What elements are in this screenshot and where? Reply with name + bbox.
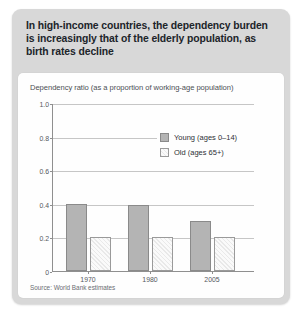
card-header: In high-income countries, the dependency… — [12, 9, 290, 59]
legend-swatch-young-icon — [160, 133, 169, 142]
y-tick-label-1.0: 1.0 — [39, 101, 49, 108]
bar-old-2005 — [214, 237, 235, 271]
y-tick-label-0.2: 0.2 — [39, 235, 49, 242]
bar-young-1980 — [128, 205, 149, 271]
y-tick-label-0: 0 — [45, 269, 49, 276]
legend-swatch-old-icon — [160, 148, 169, 157]
gridline-0.6 — [52, 171, 254, 172]
chart-subtitle: Dependency ratio (as a proportion of wor… — [30, 83, 233, 92]
y-tickmark-0.4 — [50, 205, 52, 206]
bar-old-1980 — [152, 237, 173, 271]
x-tick-label-1980: 1980 — [142, 276, 157, 283]
y-tickmark-0.8 — [50, 138, 52, 139]
x-tickmark-2005 — [212, 272, 213, 274]
y-tick-label-0.6: 0.6 — [39, 168, 49, 175]
x-tick-label-1970: 1970 — [80, 276, 95, 283]
legend-item-old: Old (ages 65+) — [160, 145, 237, 160]
x-tick-label-2005: 2005 — [204, 276, 219, 283]
bar-young-2005 — [190, 221, 211, 271]
bar-young-1970 — [66, 204, 87, 271]
x-tickmark-1970 — [88, 272, 89, 274]
y-axis-line — [52, 104, 53, 272]
y-tickmark-0.2 — [50, 238, 52, 239]
y-tick-label-0.8: 0.8 — [39, 134, 49, 141]
chart-panel: Dependency ratio (as a proportion of wor… — [18, 73, 284, 298]
gridline-1.0 — [52, 104, 254, 105]
source-note: Source: World Bank estimates — [30, 284, 115, 291]
page-title: In high-income countries, the dependency… — [26, 19, 276, 59]
chart-legend: Young (ages 0–14) Old (ages 65+) — [160, 130, 237, 160]
chart-card: In high-income countries, the dependency… — [12, 9, 290, 304]
x-tickmark-1980 — [150, 272, 151, 274]
plot-area: 1.0 0.8 0.6 0.4 0.2 0 1970 1980 — [52, 104, 254, 272]
y-tick-label-0.4: 0.4 — [39, 201, 49, 208]
x-axis-line — [52, 271, 254, 272]
legend-label-old: Old (ages 65+) — [174, 148, 224, 157]
y-tickmark-0.6 — [50, 171, 52, 172]
legend-item-young: Young (ages 0–14) — [160, 130, 237, 145]
bar-old-1970 — [90, 237, 111, 271]
legend-label-young: Young (ages 0–14) — [174, 133, 237, 142]
y-tickmark-0 — [50, 272, 52, 273]
y-tickmark-1.0 — [50, 104, 52, 105]
